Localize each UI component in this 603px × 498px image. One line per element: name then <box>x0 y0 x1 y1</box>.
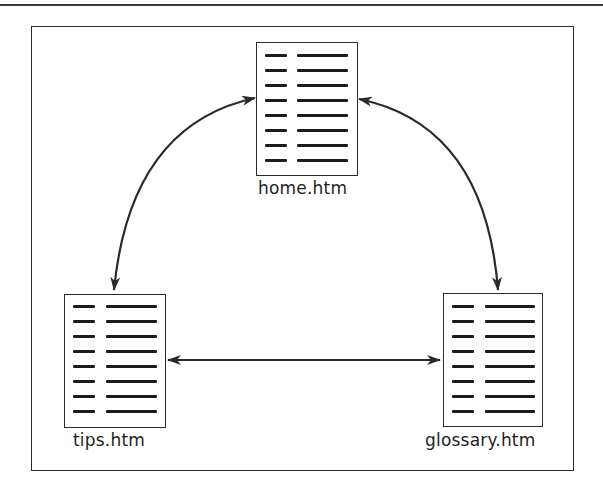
text-line <box>106 395 157 398</box>
text-line <box>265 159 287 162</box>
document-icon-home <box>256 42 358 176</box>
text-line <box>485 395 535 398</box>
text-line <box>297 54 348 57</box>
text-line <box>297 114 348 117</box>
text-line <box>452 320 474 323</box>
text-line <box>265 54 287 57</box>
text-line <box>265 69 287 72</box>
text-line <box>265 129 287 132</box>
text-line <box>73 395 95 398</box>
text-line <box>106 380 157 383</box>
text-line <box>73 335 95 338</box>
text-line <box>452 305 474 308</box>
text-line <box>265 84 287 87</box>
text-line <box>297 144 348 147</box>
text-line <box>73 410 95 413</box>
text-line <box>106 305 157 308</box>
text-line <box>106 320 157 323</box>
text-line <box>73 305 95 308</box>
top-rule <box>0 4 603 6</box>
text-line <box>452 335 474 338</box>
text-line <box>485 320 535 323</box>
text-line <box>106 410 157 413</box>
text-line <box>73 320 95 323</box>
text-line <box>452 410 474 413</box>
text-line <box>297 129 348 132</box>
text-line <box>485 380 535 383</box>
text-line <box>485 365 535 368</box>
text-line <box>452 380 474 383</box>
text-line <box>485 305 535 308</box>
text-line <box>297 84 348 87</box>
document-icon-tips <box>64 294 166 428</box>
text-line <box>297 159 348 162</box>
text-line <box>452 365 474 368</box>
text-line <box>452 350 474 353</box>
text-line <box>485 350 535 353</box>
text-line <box>106 350 157 353</box>
text-line <box>452 395 474 398</box>
text-line <box>265 99 287 102</box>
text-line <box>297 69 348 72</box>
text-line <box>485 410 535 413</box>
page-label-home: home.htm <box>258 178 347 198</box>
text-line <box>265 114 287 117</box>
text-line <box>485 335 535 338</box>
text-line <box>73 380 95 383</box>
page-label-tips: tips.htm <box>73 430 145 450</box>
text-line <box>297 99 348 102</box>
text-line <box>106 365 157 368</box>
document-icon-glossary <box>443 293 543 427</box>
text-line <box>73 350 95 353</box>
page-label-glossary: glossary.htm <box>425 430 535 450</box>
text-line <box>73 365 95 368</box>
text-line <box>106 335 157 338</box>
text-line <box>265 144 287 147</box>
